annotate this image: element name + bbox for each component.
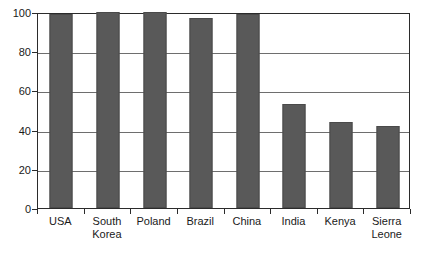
bar-slot	[131, 14, 178, 208]
x-axis-label: Brazil	[177, 215, 224, 228]
bar[interactable]	[190, 18, 213, 208]
x-tick-mark	[84, 209, 85, 214]
y-tick-label: 40	[0, 126, 31, 137]
x-tick-mark	[410, 209, 411, 214]
x-axis-label-line: Brazil	[177, 215, 224, 228]
bar[interactable]	[376, 126, 399, 208]
x-axis-label-line: Poland	[130, 215, 177, 228]
x-tick-mark	[177, 209, 178, 214]
x-tick-mark	[37, 209, 38, 214]
bar-slot	[178, 14, 225, 208]
bar[interactable]	[236, 14, 259, 208]
bar-slot	[38, 14, 85, 208]
x-axis-label: SouthKorea	[84, 215, 131, 241]
bar[interactable]	[96, 12, 119, 208]
y-tick-label: 60	[0, 86, 31, 97]
y-tick-mark	[32, 91, 37, 92]
y-axis: 020406080100	[0, 0, 32, 257]
x-axis-label-line: Sierra	[363, 215, 410, 228]
y-tick-mark	[32, 170, 37, 171]
bars-layer	[38, 14, 409, 208]
bar-chart: 020406080100 USASouthKoreaPolandBrazilCh…	[0, 0, 425, 257]
x-tick-mark	[130, 209, 131, 214]
x-axis-label: Poland	[130, 215, 177, 228]
y-tick-mark	[32, 131, 37, 132]
bar[interactable]	[143, 12, 166, 208]
plot-area	[37, 13, 410, 209]
bar[interactable]	[50, 14, 73, 208]
x-axis-label-line: USA	[37, 215, 84, 228]
bar[interactable]	[283, 104, 306, 208]
y-tick-label: 0	[0, 204, 31, 215]
x-axis-label: India	[270, 215, 317, 228]
y-tick-mark	[32, 52, 37, 53]
x-axis-label-line: Leone	[363, 228, 410, 241]
x-tick-mark	[224, 209, 225, 214]
x-axis-label-line: Korea	[84, 228, 131, 241]
x-axis-label: USA	[37, 215, 84, 228]
bar[interactable]	[330, 122, 353, 208]
x-axis-label-line: China	[224, 215, 271, 228]
y-tick-mark	[32, 209, 37, 210]
y-tick-label: 80	[0, 47, 31, 58]
x-tick-mark	[317, 209, 318, 214]
bar-slot	[364, 14, 411, 208]
x-axis-label-line: South	[84, 215, 131, 228]
x-axis-label: China	[224, 215, 271, 228]
bar-slot	[225, 14, 272, 208]
x-axis-labels: USASouthKoreaPolandBrazilChinaIndiaKenya…	[37, 215, 410, 257]
bar-slot	[271, 14, 318, 208]
x-axis-label-line: Kenya	[317, 215, 364, 228]
y-tick-mark	[32, 13, 37, 14]
x-tick-mark	[270, 209, 271, 214]
x-tick-mark	[363, 209, 364, 214]
x-axis-label-line: India	[270, 215, 317, 228]
x-axis-label: SierraLeone	[363, 215, 410, 241]
x-axis-label: Kenya	[317, 215, 364, 228]
bar-slot	[318, 14, 365, 208]
y-tick-label: 20	[0, 165, 31, 176]
y-tick-label: 100	[0, 8, 31, 19]
bar-slot	[85, 14, 132, 208]
